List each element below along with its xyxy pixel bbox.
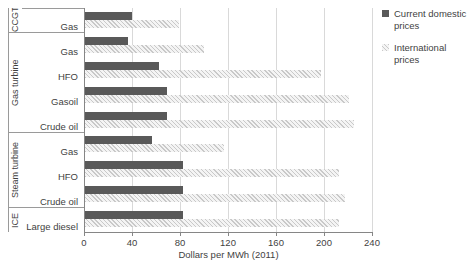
- category-label-5: Gas: [20, 147, 78, 157]
- bar-international-1: [85, 45, 204, 53]
- bar-international-5: [85, 144, 224, 152]
- bar-domestic-8: [85, 211, 183, 219]
- bar-international-7: [85, 194, 345, 202]
- bar-international-3: [85, 95, 349, 103]
- x-tick-label-80: 80: [160, 237, 200, 248]
- legend-item-international[interactable]: International prices: [382, 42, 470, 66]
- bar-international-6: [85, 169, 339, 177]
- legend-swatch-domestic-icon: [382, 10, 389, 17]
- legend: Current domestic prices International pr…: [382, 8, 470, 76]
- bar-international-8: [85, 219, 339, 227]
- category-label-8: Large diesel: [20, 222, 78, 232]
- bar-domestic-0: [85, 12, 132, 20]
- x-tick-label-40: 40: [112, 237, 152, 248]
- bar-domestic-5: [85, 136, 152, 144]
- category-label-4: Crude oil: [20, 122, 78, 132]
- bar-international-4: [85, 120, 354, 128]
- bar-international-0: [85, 20, 179, 28]
- category-label-column: Gas Gas HFO Gasoil Crude oil Gas HFO Cru…: [22, 8, 82, 232]
- plot-area: [84, 8, 372, 232]
- group-axis-line: [8, 8, 9, 232]
- gridline-240: [372, 8, 373, 232]
- x-tick-mark-80: [180, 232, 181, 236]
- category-label-0: Gas: [20, 22, 78, 32]
- category-label-1: Gas: [20, 47, 78, 57]
- category-label-2: HFO: [20, 72, 78, 82]
- bar-domestic-3: [85, 87, 167, 95]
- group-label-steam-turbine: Steam turbine: [8, 133, 22, 207]
- category-label-7: Crude oil: [20, 197, 78, 207]
- x-tick-mark-0: [84, 232, 85, 236]
- legend-swatch-international-icon: [382, 44, 389, 51]
- x-axis-title: Dollars per MWh (2011): [84, 249, 373, 260]
- x-tick-label-200: 200: [304, 237, 344, 248]
- x-tick-mark-120: [228, 232, 229, 236]
- x-tick-mark-40: [132, 232, 133, 236]
- x-tick-mark-160: [276, 232, 277, 236]
- bar-international-2: [85, 70, 321, 78]
- legend-item-domestic[interactable]: Current domestic prices: [382, 8, 470, 32]
- bar-domestic-6: [85, 161, 183, 169]
- x-tick-label-0: 0: [64, 237, 104, 248]
- category-label-6: HFO: [20, 172, 78, 182]
- x-tick-label-240: 240: [352, 237, 392, 248]
- x-tick-mark-240: [372, 232, 373, 236]
- x-tick-mark-200: [324, 232, 325, 236]
- bar-domestic-1: [85, 37, 128, 45]
- category-label-3: Gasoil: [20, 97, 78, 107]
- bar-chart: CCGT Gas turbine Steam turbine ICE Gas G…: [0, 0, 472, 263]
- bar-domestic-2: [85, 62, 159, 70]
- legend-label-domestic: Current domestic prices: [394, 8, 466, 31]
- legend-label-international: International prices: [394, 42, 446, 65]
- x-tick-label-120: 120: [208, 237, 248, 248]
- bar-domestic-4: [85, 112, 167, 120]
- bar-domestic-7: [85, 186, 183, 194]
- x-tick-label-160: 160: [256, 237, 296, 248]
